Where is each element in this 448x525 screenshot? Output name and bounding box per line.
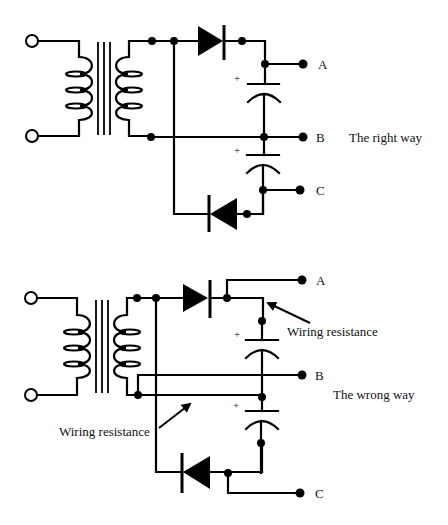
- diode-upper-icon: [198, 25, 224, 60]
- input-terminal-bottom: [25, 389, 37, 401]
- cap2-polarity: +: [234, 144, 240, 156]
- cap2-polarity: +: [233, 399, 239, 411]
- output-a-label: A: [316, 273, 326, 288]
- output-b-label: B: [316, 130, 325, 145]
- output-a-terminal: [298, 276, 307, 285]
- transformer-primary-icon: [37, 298, 90, 395]
- output-b-label: B: [315, 368, 324, 383]
- output-a-label: A: [318, 57, 328, 72]
- cap1-polarity: +: [234, 328, 240, 340]
- transformer-secondary-icon: [116, 41, 151, 136]
- output-a-terminal: [299, 60, 308, 69]
- output-b-terminal: [298, 371, 307, 380]
- transformer-secondary-icon: [114, 298, 140, 395]
- output-c-label: C: [315, 486, 324, 501]
- transformer-core-icon: [96, 300, 108, 393]
- right-way-caption: The right way: [349, 130, 422, 145]
- capacitor-1-icon: [246, 321, 278, 397]
- input-terminal-top: [26, 35, 38, 47]
- input-terminal-bottom: [26, 130, 38, 142]
- diode-lower-icon: [182, 453, 210, 493]
- output-b-terminal: [299, 133, 308, 142]
- wiring-resistance-label-upper: Wiring resistance: [287, 324, 378, 339]
- circuit-diagrams: A + B The right way + C: [0, 0, 448, 525]
- output-c-terminal: [296, 186, 305, 195]
- transformer-core-icon: [98, 42, 110, 135]
- output-c-label: C: [316, 183, 325, 198]
- diode-upper-icon: [183, 280, 210, 318]
- capacitor-1-icon: [248, 64, 280, 137]
- wiring-resistance-label-lower: Wiring resistance: [59, 424, 150, 439]
- wrong-way-caption: The wrong way: [333, 387, 415, 402]
- wiring-resistance-arrow-lower: [159, 404, 190, 428]
- output-c-terminal: [296, 489, 305, 498]
- transformer-primary-icon: [38, 41, 92, 136]
- wiring-resistance-arrow-upper: [268, 303, 310, 323]
- right-way-circuit: A + B The right way + C: [26, 25, 422, 232]
- diode-lower-icon: [209, 195, 237, 232]
- cap1-polarity: +: [234, 72, 240, 84]
- input-terminal-top: [25, 292, 37, 304]
- wrong-way-circuit: A + Wiring resistance B The wrong way Wi…: [25, 273, 415, 501]
